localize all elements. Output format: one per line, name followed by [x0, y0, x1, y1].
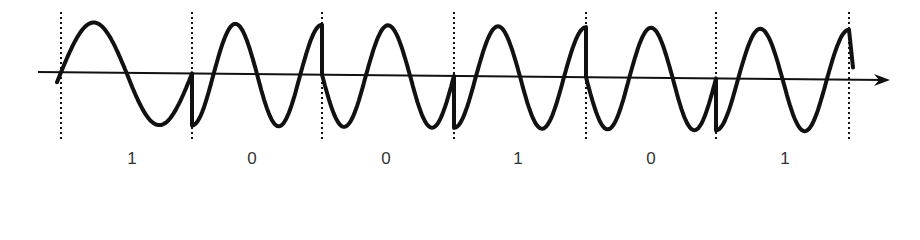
bit-label-1: 1 [127, 150, 136, 167]
bit-label-3: 0 [381, 150, 390, 167]
bit-label-5: 0 [646, 150, 655, 167]
bit-label-6: 1 [780, 150, 789, 167]
bit-label-4: 1 [513, 150, 522, 167]
time-axis [38, 72, 884, 80]
bit-label-2: 0 [247, 150, 256, 167]
